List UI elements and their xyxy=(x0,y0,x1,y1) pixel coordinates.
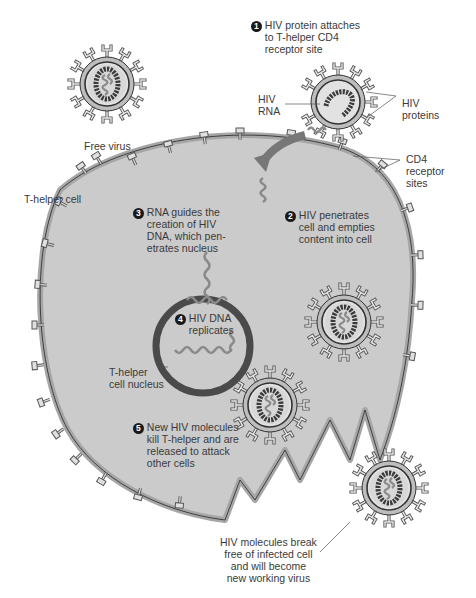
nucleus-label: T-helper cell nucleus xyxy=(109,366,164,390)
step-1: 1HIV protein attaches to T-helper CD4 re… xyxy=(245,7,360,55)
step-2: 2HIV penetrates cell and empties content… xyxy=(279,197,375,245)
step-5: 5New HIV molecules kill T-helper and are… xyxy=(127,409,239,469)
free-virus-label: Free virus xyxy=(84,140,131,152)
t-helper-cell-label: T-helper cell xyxy=(24,193,81,205)
step-1-text: HIV protein attaches to T-helper CD4 rec… xyxy=(265,19,360,55)
step-1-number: 1 xyxy=(251,21,262,32)
hiv-lifecycle-diagram xyxy=(0,0,476,598)
step-2-number: 2 xyxy=(285,211,296,222)
step-4-text: HIV DNA replicates xyxy=(189,312,234,336)
released-virus xyxy=(351,450,427,526)
step-4-number: 4 xyxy=(175,314,186,325)
step-3-number: 3 xyxy=(133,208,144,219)
hiv-proteins-label: HIV proteins xyxy=(402,97,439,121)
free-virus xyxy=(69,46,145,122)
hiv-rna-label: HIV RNA xyxy=(258,93,280,117)
step-5-number: 5 xyxy=(133,423,144,434)
step-5-text: New HIV molecules kill T-helper and are … xyxy=(147,421,239,469)
step-3: 3RNA guides the creation of HIV DNA, whi… xyxy=(127,194,226,254)
cd4-receptor-sites-label: CD4 receptor sites xyxy=(406,153,445,189)
step-3-text: RNA guides the creation of HIV DNA, whic… xyxy=(147,206,226,254)
step-2-text: HIV penetrates cell and empties content … xyxy=(299,209,375,245)
attaching-virus xyxy=(303,64,376,140)
step-4: 4HIV DNA replicates xyxy=(169,300,234,336)
break-free-label: HIV molecules break free of infected cel… xyxy=(220,536,317,584)
